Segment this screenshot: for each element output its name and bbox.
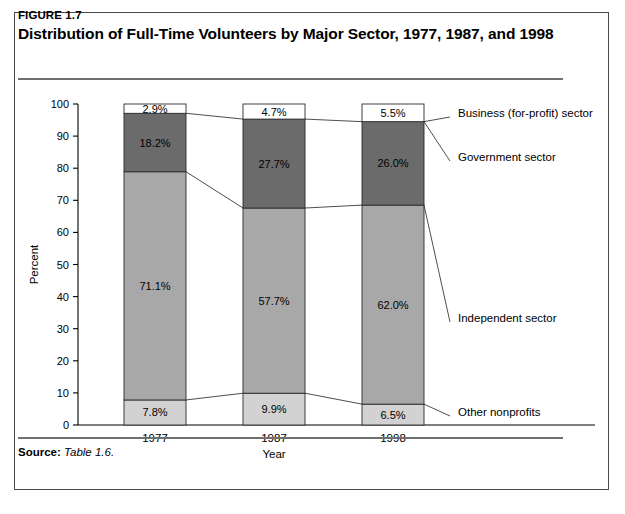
source-note: Source: Table 1.6. [18,446,114,458]
source-value: Table 1.6. [64,446,114,458]
title-divider [18,78,563,80]
figure-number: FIGURE 1.7 [18,9,82,21]
source-label: Source: [18,446,61,458]
source-divider [18,437,563,439]
figure-container: FIGURE 1.7 Distribution of Full-Time Vol… [0,0,625,514]
figure-title: Distribution of Full-Time Volunteers by … [18,24,563,43]
figure-border-box [14,12,609,490]
